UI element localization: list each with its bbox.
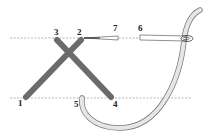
stitch-3-4 (57, 40, 111, 97)
label-6: 6 (138, 23, 143, 33)
needle-eye (140, 35, 193, 42)
label-4: 4 (113, 99, 118, 109)
label-5: 5 (74, 99, 79, 109)
needle-tip (84, 36, 118, 40)
label-7: 7 (113, 23, 118, 33)
label-1: 1 (18, 98, 23, 108)
label-3: 3 (54, 27, 59, 37)
stitch-1-2 (26, 40, 81, 97)
label-2: 2 (77, 27, 82, 37)
cross-stitch-diagram: 1 2 3 4 5 6 7 (0, 0, 210, 138)
